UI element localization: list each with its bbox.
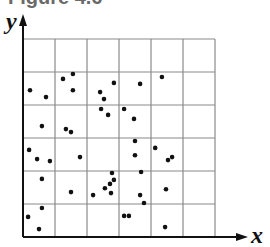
data-point (170, 155, 175, 160)
data-point (163, 225, 168, 230)
data-point (153, 146, 158, 151)
data-point (110, 171, 115, 176)
data-points (26, 72, 175, 232)
data-point (122, 107, 127, 112)
data-point (133, 139, 138, 144)
data-point (122, 214, 127, 219)
data-point (40, 177, 45, 182)
grid-lines (23, 39, 215, 237)
axes (19, 14, 248, 241)
data-point (71, 72, 76, 77)
data-point (69, 130, 74, 135)
data-point (64, 127, 69, 132)
data-point (27, 148, 32, 153)
data-point (37, 227, 42, 232)
y-axis-label: y (6, 8, 17, 35)
data-point (109, 191, 114, 196)
data-point (102, 97, 107, 102)
data-point (166, 158, 171, 163)
data-point (106, 113, 111, 118)
data-point (112, 178, 117, 183)
data-point (71, 88, 76, 93)
scatter-plot (0, 0, 270, 247)
data-point (61, 77, 66, 82)
data-point (142, 201, 147, 206)
x-axis-label: x (251, 222, 263, 247)
data-point (139, 170, 144, 175)
data-point (28, 88, 33, 93)
data-point (138, 82, 143, 87)
data-point (99, 107, 104, 112)
data-point (112, 81, 117, 86)
data-point (127, 214, 132, 219)
y-axis-arrow-icon (19, 14, 27, 26)
data-point (108, 182, 113, 187)
data-point (133, 153, 138, 158)
data-point (69, 190, 74, 195)
data-point (35, 157, 40, 162)
data-point (91, 193, 96, 198)
data-point (103, 186, 108, 191)
data-point (164, 187, 169, 192)
data-point (40, 124, 45, 129)
data-point (138, 193, 143, 198)
data-point (98, 90, 103, 95)
data-point (78, 155, 83, 160)
x-axis-arrow-icon (236, 233, 248, 241)
data-point (160, 75, 165, 80)
data-point (26, 215, 31, 220)
data-point (44, 95, 49, 100)
data-point (48, 159, 53, 164)
data-point (40, 206, 45, 211)
data-point (132, 117, 137, 122)
